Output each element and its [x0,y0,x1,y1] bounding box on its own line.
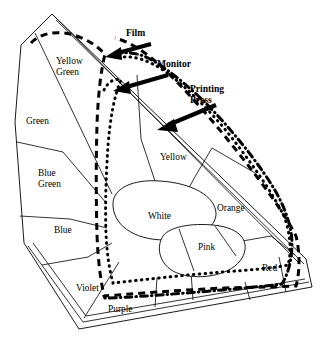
region-label-red: Red [262,263,277,273]
arrow-printing-press [157,105,216,132]
region-label-orange: Orange [217,203,245,213]
region-label-violet: Violet [76,283,99,293]
region-label-blue-green-line1: Blue [38,168,56,178]
callout-label-printing-press-line1: Printing [190,83,224,94]
region-label-blue: Blue [54,225,72,235]
region-label-white: White [148,211,171,221]
region-label-green: Green [26,116,49,126]
region-label-pink: Pink [198,242,216,252]
callout-label-monitor: Monitor [157,58,192,69]
region-label-yellow-green-line1: Yellow [56,56,83,66]
region-label-yellow-green-line2: Green [56,67,79,77]
region-label-yellow: Yellow [160,152,187,162]
callout-label-film: Film [126,27,145,38]
region-label-purple: Purple [108,304,132,314]
color-gamut-diagram: Film Monitor Printing Press Yellow Green… [0,0,329,347]
region-label-blue-green-line2: Green [38,179,61,189]
callout-label-printing-press-line2: Press [190,94,212,105]
